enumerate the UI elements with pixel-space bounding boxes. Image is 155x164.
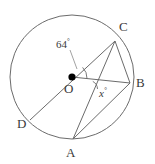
segment-C-A xyxy=(73,41,115,139)
central-angle-label: 64° xyxy=(56,38,70,50)
point-label-D: D xyxy=(17,117,26,130)
center-label-O: O xyxy=(64,82,73,95)
geometry-canvas xyxy=(0,0,155,164)
geometry-figure: C B A D O 64° x° xyxy=(0,0,155,164)
central-angle-degree-symbol: ° xyxy=(67,37,70,45)
point-label-A: A xyxy=(66,146,75,159)
angle-leader-line xyxy=(70,50,77,69)
angle-x-label: x° xyxy=(99,87,107,99)
central-angle-value: 64 xyxy=(56,38,67,50)
segment-O-B xyxy=(72,77,130,83)
segment-C-B xyxy=(115,41,130,83)
point-label-B: B xyxy=(136,76,145,89)
angle-x-degree-symbol: ° xyxy=(104,86,107,94)
center-point-dot xyxy=(68,73,75,80)
point-label-C: C xyxy=(119,20,128,33)
